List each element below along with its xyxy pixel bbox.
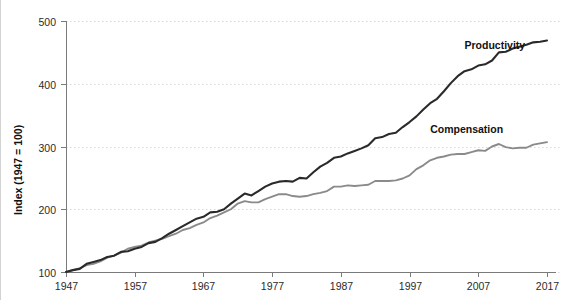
x-axis-ticks-group: 19471957196719771987199720072017 bbox=[55, 272, 560, 292]
y-tick-label-400: 400 bbox=[38, 79, 56, 91]
y-tick-label-500: 500 bbox=[38, 16, 56, 28]
series-line-productivity bbox=[66, 40, 547, 272]
chart-page: 100200300400500 194719571967197719871997… bbox=[0, 0, 564, 300]
series-label-compensation: Compensation bbox=[430, 123, 503, 135]
productivity-compensation-line-chart: 100200300400500 194719571967197719871997… bbox=[0, 0, 564, 300]
y-axis-title: Index (1947 = 100) bbox=[12, 125, 24, 215]
y-tick-label-300: 300 bbox=[38, 142, 56, 154]
y-axis-ticks-group: 100200300400500 bbox=[38, 16, 66, 279]
gridlines-group bbox=[66, 22, 562, 273]
x-tick-label-1957: 1957 bbox=[124, 280, 148, 292]
y-tick-label-100: 100 bbox=[38, 267, 56, 279]
x-tick-label-1987: 1987 bbox=[330, 280, 354, 292]
series-line-compensation bbox=[66, 142, 547, 272]
x-tick-label-2007: 2007 bbox=[467, 280, 491, 292]
x-tick-label-2017: 2017 bbox=[536, 280, 560, 292]
y-tick-label-200: 200 bbox=[38, 204, 56, 216]
x-tick-label-1997: 1997 bbox=[399, 280, 423, 292]
x-tick-label-1977: 1977 bbox=[261, 280, 285, 292]
x-tick-label-1967: 1967 bbox=[192, 280, 216, 292]
series-label-productivity: Productivity bbox=[465, 39, 526, 51]
x-tick-label-1947: 1947 bbox=[55, 280, 79, 292]
